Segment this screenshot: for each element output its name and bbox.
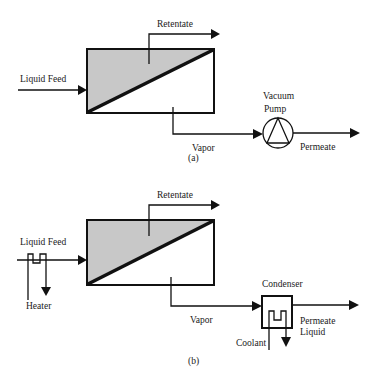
caption-b: (b) — [188, 356, 199, 367]
vapor-label-b: Vapor — [190, 315, 214, 325]
pervaporation-diagram: Liquid Feed Retentate Vapor Vacuum Pump — [0, 0, 377, 378]
pump-label-line1: Vacuum — [263, 91, 295, 101]
pump-label-line2: Pump — [264, 104, 286, 114]
feed-label-a: Liquid Feed — [20, 74, 66, 84]
panel-b: Liquid Feed Heater Retentate Vapor Conde… — [17, 190, 359, 367]
feed-arrow-a — [18, 85, 87, 95]
permeate-arrow-b — [292, 300, 359, 310]
retentate-label-a: Retentate — [157, 19, 193, 29]
condenser-icon — [262, 296, 292, 350]
coolant-label: Coolant — [236, 338, 266, 348]
vacuum-pump-icon — [263, 118, 293, 148]
feed-label-b: Liquid Feed — [20, 237, 66, 247]
permeate-label-b-line1: Permeate — [300, 316, 335, 326]
heater-icon — [28, 254, 51, 300]
permeate-label-a: Permeate — [300, 142, 335, 152]
condenser-label: Condenser — [262, 279, 303, 289]
vapor-arrow-a — [173, 107, 263, 139]
caption-a: (a) — [188, 153, 199, 164]
membrane-module-a — [87, 49, 214, 113]
retentate-label-b: Retentate — [157, 190, 193, 200]
heater-label: Heater — [26, 301, 52, 311]
vapor-arrow-b — [171, 277, 262, 311]
permeate-label-b-line2: Liquid — [300, 327, 326, 337]
membrane-module-b — [87, 220, 214, 285]
permeate-arrow-a — [293, 128, 360, 138]
vapor-label-a: Vapor — [192, 143, 216, 153]
panel-a: Liquid Feed Retentate Vapor Vacuum Pump — [18, 19, 360, 164]
